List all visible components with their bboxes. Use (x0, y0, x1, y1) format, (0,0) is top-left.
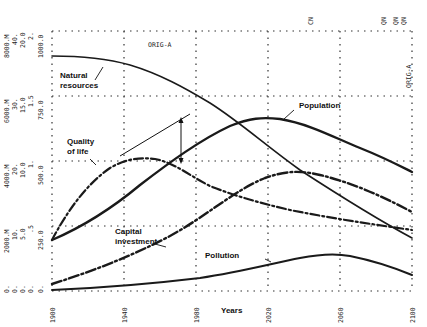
x-tick-2020: 2020 (265, 307, 273, 323)
x-tick-1940: 1940 (121, 307, 129, 323)
x-tick-2100: 2100 (409, 307, 417, 323)
top-mark-1: CN (307, 17, 315, 25)
y-tick-4-a: 8000.M (3, 34, 11, 58)
y-axis-ticks: 0. 0. 0. 0. 0. 2000.M 10. 5.0 .5 250.0 4… (3, 32, 45, 293)
y-tick-3-d: 1.5 (27, 95, 35, 107)
label-capital-investment-2: investment (115, 237, 158, 246)
y-tick-3-b: 30. (11, 98, 19, 110)
top-mark-2: QN (380, 17, 388, 25)
label-capital-investment-1: Capital (115, 227, 142, 236)
y-tick-1-c: 5.0 (19, 228, 27, 240)
y-tick-3-c: 15.0 (19, 97, 27, 113)
top-mark-3: QN (392, 17, 400, 25)
x-axis-title: Years (221, 306, 243, 315)
run-label-top: ORIG-A (148, 41, 172, 49)
y-tick-0-b: 0. (11, 285, 19, 293)
quality-of-life-curve (52, 158, 412, 240)
x-tick-2060: 2060 (337, 307, 345, 323)
y-tick-0-e: 0. (37, 285, 45, 293)
y-tick-2-e: 500.0 (37, 165, 45, 185)
y-tick-4-d: 2. (27, 32, 35, 40)
label-natural-resources-2: resources (60, 81, 99, 90)
label-population: Population (299, 101, 340, 110)
y-tick-4-c: 20.0 (19, 32, 27, 48)
run-label-side: ORIG-A (405, 64, 413, 88)
top-mark-4: QN (400, 17, 408, 25)
y-tick-1-d: .5 (27, 225, 35, 233)
x-tick-1980: 1980 (193, 307, 201, 323)
label-pollution: Pollution (205, 251, 239, 260)
y-tick-0-c: 0. (19, 285, 27, 293)
y-tick-4-b: 40. (11, 33, 19, 45)
y-tick-0-a: 0. (3, 285, 11, 293)
y-tick-2-c: 10.0 (19, 162, 27, 178)
y-tick-4-e: 1000.0 (37, 34, 45, 58)
y-tick-2-b: 20. (11, 163, 19, 175)
y-tick-1-b: 10. (11, 228, 19, 240)
capital-investment-curve (52, 172, 412, 284)
label-quality-of-life-2: of life (67, 147, 89, 156)
y-tick-3-a: 6000.M (3, 99, 11, 123)
y-tick-2-d: 1. (27, 160, 35, 168)
y-tick-1-a: 2000.M (3, 229, 11, 253)
y-tick-0-d: 0. (27, 285, 35, 293)
label-quality-of-life-1: Quality (67, 137, 95, 146)
y-tick-2-a: 4000.M (3, 164, 11, 188)
label-natural-resources-1: Natural (60, 71, 88, 80)
y-tick-3-e: 750.0 (37, 100, 45, 120)
world-model-chart: Natural resources Population Quality of … (0, 0, 427, 327)
x-tick-1900: 1900 (49, 307, 57, 323)
y-tick-1-e: 250.0 (37, 230, 45, 250)
